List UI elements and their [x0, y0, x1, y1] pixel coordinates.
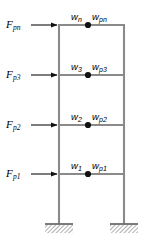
- frame-diagram: Fpn Fp3 Fp2 Fp1 wn wpn w3 wp3 w2 wp2 w1 …: [0, 0, 145, 241]
- force-label-level-2: Fp2: [6, 119, 20, 130]
- weight-label-level-n: wpn: [92, 12, 107, 22]
- weight-symbol-level-1: w: [92, 160, 99, 171]
- force-subscript-level-1: p1: [13, 172, 21, 181]
- force-symbol-level-n: F: [6, 18, 13, 30]
- force-label-level-1: Fp1: [6, 168, 20, 179]
- mass-label-level-3: w3: [71, 62, 82, 72]
- force-label-level-3: Fp3: [6, 69, 20, 80]
- mass-subscript-level-n: n: [78, 16, 82, 23]
- weight-subscript-level-1: p1: [99, 165, 107, 172]
- weight-subscript-level-n: pn: [99, 16, 107, 23]
- force-arrows: [31, 25, 57, 174]
- force-symbol-level-3: F: [6, 68, 13, 80]
- mass-subscript-level-1: 1: [78, 165, 82, 172]
- support-right-hatch: [110, 225, 138, 234]
- weight-label-level-2: wp2: [92, 112, 107, 122]
- beams: [58, 25, 125, 174]
- force-subscript-level-3: p3: [13, 73, 21, 82]
- mass-label-level-1: w1: [71, 161, 82, 171]
- support-left-hatch: [45, 225, 73, 234]
- force-symbol-level-2: F: [6, 118, 13, 130]
- weight-symbol-level-n: w: [92, 11, 99, 22]
- weight-subscript-level-2: p2: [99, 116, 107, 123]
- weight-symbol-level-3: w: [92, 61, 99, 72]
- mass-subscript-level-2: 2: [78, 116, 82, 123]
- weight-label-level-3: wp3: [92, 62, 107, 72]
- mass-symbol-level-2: w: [71, 111, 78, 122]
- mass-node-level-2: [85, 122, 91, 128]
- weight-symbol-level-2: w: [92, 111, 99, 122]
- mass-node-level-3: [85, 72, 91, 78]
- mass-label-level-n: wn: [71, 12, 82, 22]
- mass-symbol-level-1: w: [71, 160, 78, 171]
- mass-node-level-1: [85, 171, 91, 177]
- mass-label-level-2: w2: [71, 112, 82, 122]
- force-subscript-level-n: pn: [13, 23, 21, 32]
- mass-nodes: [85, 22, 91, 177]
- weight-label-level-1: wp1: [92, 161, 107, 171]
- mass-node-level-n: [85, 22, 91, 28]
- mass-subscript-level-3: 3: [78, 66, 82, 73]
- weight-subscript-level-3: p3: [99, 66, 107, 73]
- mass-symbol-level-3: w: [71, 61, 78, 72]
- force-label-level-n: Fpn: [6, 19, 20, 30]
- mass-symbol-level-n: w: [71, 11, 78, 22]
- support-right-group: [110, 224, 138, 233]
- force-subscript-level-2: p2: [13, 123, 21, 132]
- force-symbol-level-1: F: [6, 167, 13, 179]
- support-left-group: [45, 224, 73, 233]
